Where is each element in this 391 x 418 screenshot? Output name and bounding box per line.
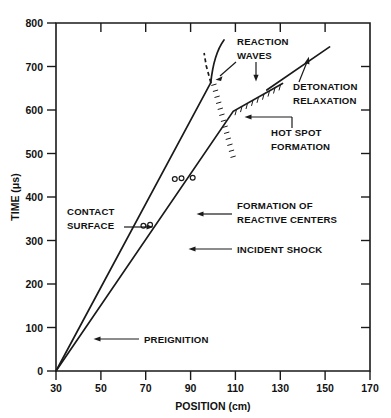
annotation-reaction: REACTION	[237, 36, 289, 47]
arrowhead-reaction-left	[216, 76, 223, 81]
y-tick-label-500: 500	[25, 148, 43, 160]
annotation-waves: WAVES	[237, 50, 272, 61]
x-tick-label-110: 110	[227, 382, 244, 394]
arrowhead-incident-shock	[189, 246, 196, 251]
arrowhead-hot-spot	[245, 114, 252, 119]
x-tick-label-70: 70	[140, 382, 152, 394]
arrowhead-reactive-centers	[197, 211, 204, 216]
x-ticks-top	[101, 23, 325, 32]
data-point	[179, 176, 184, 181]
annotation-incident-shock: INCIDENT SHOCK	[237, 244, 322, 255]
y-ticks-right	[361, 67, 370, 328]
annotation-formation: FORMATION	[271, 141, 330, 152]
x-axis-title: POSITION (cm)	[175, 400, 250, 412]
annotation-preignition: PREIGNITION	[144, 334, 209, 345]
annotation-reactive-centers: REACTIVE CENTERS	[237, 214, 338, 225]
y-tick-label-300: 300	[25, 235, 43, 247]
chart-figure: 0 100 200 300 400 500 600 700 800 30 50 …	[0, 0, 391, 418]
y-tick-label-800: 800	[25, 17, 43, 29]
arrowhead-reaction-right	[253, 75, 258, 82]
y-tick-label-600: 600	[25, 104, 43, 116]
x-ticks-bottom	[56, 371, 370, 380]
data-point	[172, 177, 177, 182]
y-axis-title: TIME (μs)	[9, 173, 21, 220]
x-tick-label-150: 150	[316, 382, 334, 394]
x-tick-label-90: 90	[185, 382, 197, 394]
annotation-hot-spot: HOT SPOT	[271, 127, 322, 138]
plot-frame	[56, 23, 370, 371]
arrowhead-preignition	[94, 336, 101, 341]
reaction-wave-curve	[211, 40, 224, 83]
annotation-detonation: DETONATION	[293, 81, 358, 92]
y-tick-label-400: 400	[25, 191, 43, 203]
data-point	[190, 175, 195, 180]
annotation-relaxation: RELAXATION	[293, 95, 357, 106]
x-tick-label-30: 30	[50, 382, 62, 394]
x-tick-label-50: 50	[95, 382, 107, 394]
y-tick-label-200: 200	[25, 278, 43, 290]
annotation-surface: SURFACE	[67, 220, 115, 231]
x-tick-label-170: 170	[361, 382, 379, 394]
annotation-contact: CONTACT	[67, 206, 115, 217]
y-tick-label-100: 100	[25, 322, 43, 334]
leader-reaction-left	[220, 62, 236, 76]
chart-svg: 0 100 200 300 400 500 600 700 800 30 50 …	[0, 0, 391, 418]
annotation-formation-of: FORMATION OF	[237, 200, 313, 211]
y-tick-label-700: 700	[25, 61, 43, 73]
y-tick-label-0: 0	[37, 365, 43, 377]
x-tick-label-130: 130	[272, 382, 290, 394]
reaction-wave-dashed	[204, 53, 211, 83]
hot-spot-hatching-left	[211, 84, 235, 158]
scatter-points	[141, 175, 195, 228]
y-ticks-left	[47, 23, 56, 371]
